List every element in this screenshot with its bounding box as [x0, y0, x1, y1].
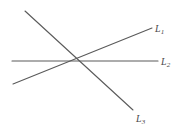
line-label-l3-letter: L — [136, 113, 142, 124]
line-label-l1-letter: L — [155, 23, 161, 34]
lines-canvas — [0, 0, 182, 135]
line-label-l1: L1 — [155, 24, 164, 34]
line-label-l2-letter: L — [161, 56, 167, 67]
line-l1 — [13, 28, 152, 84]
line-label-l2: L2 — [161, 57, 170, 67]
line-label-l3-subscript: 3 — [142, 118, 146, 126]
line-label-l3: L3 — [136, 114, 145, 124]
geometry-figure: L1 L2 L3 — [0, 0, 182, 135]
line-label-l1-subscript: 1 — [161, 28, 165, 36]
line-label-l2-subscript: 2 — [167, 61, 171, 69]
